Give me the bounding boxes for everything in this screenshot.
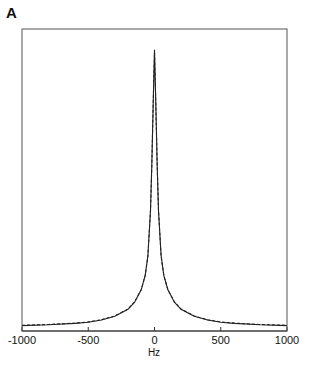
x-tick-label: 0 — [151, 334, 157, 346]
series-solid-line — [22, 50, 287, 326]
series-dashed-line — [22, 53, 287, 326]
plot-frame — [22, 29, 287, 331]
x-tick-label: -1000 — [8, 334, 36, 346]
x-tick-label: 500 — [212, 334, 230, 346]
x-tick-label: -500 — [77, 334, 99, 346]
x-axis-ticks — [22, 327, 287, 331]
chart-plot-area — [0, 0, 309, 366]
x-axis-label: Hz — [148, 347, 160, 358]
x-tick-label: 1000 — [275, 334, 299, 346]
